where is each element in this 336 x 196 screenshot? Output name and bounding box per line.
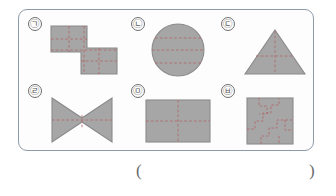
square-outline: [247, 98, 293, 144]
figure-panel: ㉠ ㉡: [18, 9, 314, 151]
shape-figure-triangle: [243, 28, 307, 76]
shape-label-circled-mieum: ㉤: [131, 84, 145, 98]
answer-blank[interactable]: ( ): [18, 155, 314, 189]
shape-cell-b: ㉡: [123, 14, 219, 80]
shape-cell-f: ㉥: [217, 82, 311, 148]
shape-figure-bowtie: [49, 95, 115, 145]
shape-label-circled-rieul: ㉣: [28, 84, 42, 98]
shape-figure-circle: [149, 22, 207, 78]
shape-label-circled-bieup: ㉥: [221, 84, 235, 98]
shape-figure-square: [245, 96, 295, 146]
answer-paren-close: ): [309, 161, 315, 181]
shape-figure-z-shaped-hexomino: [49, 24, 119, 76]
shape-cell-d: ㉣: [23, 82, 119, 148]
shape-label-circled-nieun: ㉡: [131, 17, 145, 31]
shape-cell-c: ㉢: [217, 14, 311, 80]
shape-cell-e: ㉤: [123, 82, 219, 148]
shape-cell-a: ㉠: [23, 14, 119, 80]
answer-paren-open: (: [136, 161, 142, 181]
shape-label-circled-digeut: ㉢: [221, 17, 235, 31]
shape-figure-rectangle: [144, 98, 212, 144]
worksheet-root: ㉠ ㉡: [0, 0, 336, 196]
shape-label-circled-giyeok: ㉠: [28, 17, 42, 31]
